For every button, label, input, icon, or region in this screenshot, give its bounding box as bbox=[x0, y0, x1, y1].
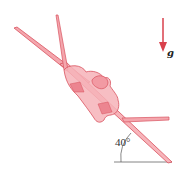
aircraft-diagram bbox=[0, 0, 184, 173]
right-stabilizer bbox=[122, 117, 169, 122]
fuselage-body bbox=[64, 66, 119, 122]
gravity-arrow-head bbox=[159, 42, 167, 52]
gravity-label: g bbox=[167, 47, 174, 58]
bank-angle-label: 40° bbox=[115, 136, 130, 148]
